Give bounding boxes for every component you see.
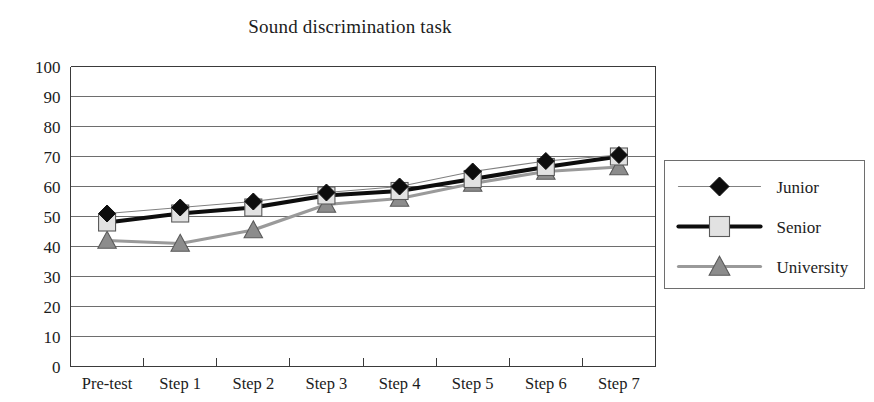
x-axis-tick-label: Step 5 <box>452 374 494 393</box>
y-axis-tick-label: 80 <box>44 118 61 137</box>
x-axis-tick-label: Step 3 <box>306 374 348 393</box>
x-axis-tick-label: Step 7 <box>598 374 640 393</box>
legend-label-senior: Senior <box>777 218 822 237</box>
legend-label-junior: Junior <box>777 178 820 197</box>
y-axis-tick-label: 30 <box>44 268 61 287</box>
chart-container: Sound discrimination task 01020304050607… <box>0 0 874 402</box>
y-axis-tick-label: 60 <box>44 178 61 197</box>
legend-label-university: University <box>777 258 849 277</box>
data-series <box>98 147 628 252</box>
x-axis-tick-label: Pre-test <box>82 374 133 393</box>
y-axis-tick-label: 40 <box>44 238 61 257</box>
x-axis-tick-label: Step 6 <box>525 374 567 393</box>
chart-legend: JuniorSeniorUniversity <box>665 161 865 289</box>
y-axis-tick-label: 70 <box>44 148 61 167</box>
y-axis-tick-label: 0 <box>52 358 61 377</box>
y-axis-tick-label: 50 <box>44 208 61 227</box>
x-axis-tick-labels: Pre-testStep 1Step 2Step 3Step 4Step 5St… <box>82 374 640 393</box>
x-axis-tick-label: Step 1 <box>159 374 201 393</box>
x-axis-tick-label: Step 2 <box>232 374 274 393</box>
y-axis-tick-label: 10 <box>44 328 61 347</box>
x-axis-tick-label: Step 4 <box>379 374 421 393</box>
y-axis-tick-label: 90 <box>44 88 61 107</box>
y-axis-tick-labels: 0102030405060708090100 <box>35 58 61 377</box>
y-axis-tick-label: 20 <box>44 298 61 317</box>
y-axis-tick-label: 100 <box>35 58 61 77</box>
chart-plot: 0102030405060708090100 Pre-testStep 1Ste… <box>0 0 874 402</box>
legend-marker-senior <box>710 217 730 237</box>
legend-marker-junior <box>710 177 729 196</box>
